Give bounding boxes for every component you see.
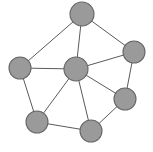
graph-node-n7 <box>26 111 48 133</box>
graph-canvas <box>0 0 153 152</box>
graph-node-n5 <box>114 88 136 110</box>
graph-node-n3 <box>64 57 88 81</box>
graph-node-n1 <box>70 2 94 26</box>
graph-node-n2 <box>9 57 31 79</box>
node-layer <box>9 2 145 142</box>
graph-node-n4 <box>123 41 145 63</box>
graph-node-n6 <box>80 120 102 142</box>
graph-diagram <box>0 0 153 152</box>
